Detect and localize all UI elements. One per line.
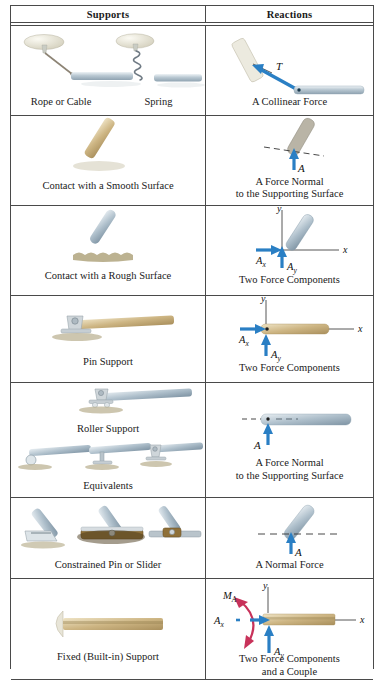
table: Supports Reactions (10, 5, 374, 669)
beam-right (154, 74, 205, 88)
reaction-cell-normal-force-roller: A A Force Normal to the Supporting Surfa… (206, 383, 373, 497)
reaction-caption-line1: A Force Normal (206, 176, 373, 189)
reaction-caption-line2: to the Supporting Surface (206, 470, 373, 483)
label-Ax: Ax (213, 615, 224, 629)
reaction-caption-line1: Two Force Components (206, 653, 373, 666)
support-cell-pin-support: Pin Support (11, 296, 206, 382)
slider-variant-1 (21, 507, 65, 548)
beam-left (71, 72, 141, 87)
table-row: Contact with a Smooth Surface A (11, 116, 373, 206)
support-art-equivalents (11, 439, 205, 481)
table-row: Pin Support y x (11, 296, 373, 383)
label-Ax: Ax (238, 334, 249, 348)
force-arrow-Ay (261, 334, 271, 356)
table-row: Roller Support (11, 383, 373, 498)
ground-patch (52, 333, 102, 341)
support-caption-constrained-pin-slider: Constrained Pin or Slider (11, 559, 205, 572)
reaction-cell-normal-force-smooth: A A Force Normal to the Supporting Surfa… (206, 116, 373, 205)
support-cell-constrained-pin-slider: Constrained Pin or Slider (11, 498, 206, 578)
table-row: Contact with a Rough Surface y x (11, 206, 373, 296)
slider-variant-3 (149, 505, 201, 537)
support-caption-spring: Spring (111, 96, 206, 109)
support-art-smooth-surface (11, 116, 205, 180)
table-row: Rope or Cable Spring T (11, 26, 373, 116)
slider-variant-2 (77, 504, 145, 544)
reaction-art-collinear-force: T (206, 26, 373, 96)
reaction-caption-normal-force: A Normal Force (206, 559, 373, 572)
axis-label-y: y (276, 203, 282, 214)
label-A: A (297, 162, 305, 174)
reaction-art-normal-force: A (206, 401, 373, 461)
label-Ay: Ay (270, 349, 281, 363)
moment-arrow-MA (234, 597, 254, 649)
pinned-beam (69, 315, 174, 329)
rope-line (45, 53, 72, 74)
reaction-cell-two-components-pin: y x Ax (206, 296, 373, 382)
label-Ay: Ay (286, 261, 297, 275)
equivalent-pin-post (85, 443, 151, 470)
reaction-caption-two-force-components: Two Force Components (206, 362, 373, 375)
reaction-cell-normal-force-slider: A A Normal Force (206, 498, 373, 578)
force-arrow-A (263, 423, 273, 445)
support-caption-roller-support: Roller Support (11, 423, 205, 436)
support-cell-roller-support: Roller Support (11, 383, 206, 497)
support-caption-smooth-surface: Contact with a Smooth Surface (11, 180, 205, 193)
support-caption-rough-surface: Contact with a Rough Surface (11, 270, 205, 283)
support-art-rope-and-spring (11, 26, 205, 96)
smooth-surface-shadow (73, 161, 125, 171)
support-caption-fixed-support: Fixed (Built-in) Support (11, 651, 205, 664)
reaction-caption-collinear-force: A Collinear Force (206, 96, 373, 109)
axis-label-x: x (342, 244, 348, 255)
rough-surface (73, 253, 133, 263)
axis-label-y: y (262, 580, 268, 591)
reaction-caption-line2: and a Couple (206, 666, 373, 679)
support-art-pin-support (11, 296, 205, 356)
axis-label-x: x (359, 614, 365, 625)
reaction-cell-two-components-rough: y x Ax (206, 206, 373, 295)
table-header-row: Supports Reactions (11, 6, 373, 23)
reaction-art-components-and-couple: y x MA (206, 583, 373, 659)
support-cell-rope-spring: Rope or Cable Spring (11, 26, 206, 115)
support-cell-rough-surface: Contact with a Rough Surface (11, 206, 206, 295)
reaction-art-normal-force: A (206, 502, 373, 558)
support-caption-rope-or-cable: Rope or Cable (11, 96, 111, 109)
reaction-caption-two-force-components: Two Force Components (206, 274, 373, 287)
support-art-roller-support (11, 383, 205, 423)
support-art-constrained-pin-slider (11, 503, 205, 559)
wall-bracket-right (116, 34, 154, 51)
bar (282, 503, 316, 542)
rod (88, 208, 117, 245)
reaction-art-two-force-components: y x Ax (206, 206, 373, 274)
reaction-art-normal-force: A (206, 116, 373, 176)
axis-label-x: x (357, 323, 363, 334)
force-arrow-Ay (264, 625, 274, 653)
rod (286, 116, 316, 157)
support-art-rough-surface (11, 206, 205, 270)
axis-label-y: y (260, 293, 266, 304)
coil-spring (134, 51, 143, 80)
wall-bracket-left (24, 35, 64, 54)
beam (261, 324, 329, 334)
label-A: A (294, 546, 302, 558)
label-Ax: Ax (255, 255, 266, 269)
wall (56, 611, 63, 637)
label-A: A (253, 439, 261, 451)
table-row: Constrained Pin or Slider A (11, 498, 373, 579)
beam-end (261, 414, 351, 425)
rod (83, 116, 116, 159)
support-caption-equivalents: Equivalents (11, 480, 205, 493)
wall-plate (231, 37, 264, 82)
support-cell-fixed-support: Fixed (Built-in) Support (11, 579, 206, 679)
beam (294, 86, 364, 94)
table-row: Fixed (Built-in) Support y x (11, 579, 373, 680)
reaction-art-two-force-components: y x Ax (206, 296, 373, 362)
support-cell-smooth-surface: Contact with a Smooth Surface (11, 116, 206, 205)
rod (284, 213, 315, 253)
support-art-fixed-support (11, 605, 205, 645)
force-arrow-Ax (256, 245, 282, 255)
equivalent-ball-roller (18, 445, 91, 470)
label-T: T (276, 60, 283, 72)
support-caption-pin-support: Pin Support (11, 356, 205, 369)
beam (263, 614, 335, 625)
